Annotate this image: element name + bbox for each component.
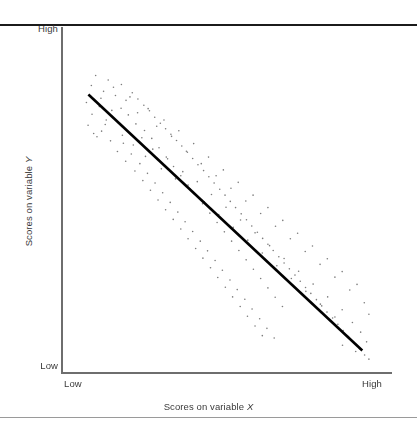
y-axis-title-text: Scores on variable — [23, 163, 34, 246]
x-axis-title: Scores on variable X — [0, 401, 417, 412]
x-axis-low-label: Low — [64, 378, 82, 389]
figure-top-rule — [0, 24, 417, 26]
y-axis-title: Scores on variable Y — [23, 112, 34, 292]
y-axis-high-label: High — [38, 23, 58, 34]
x-axis-title-variable: X — [247, 401, 253, 412]
scatter-plot-canvas — [62, 27, 392, 373]
figure-scatterplot: High Low Low High Scores on variable X S… — [0, 0, 417, 430]
x-axis-high-label: High — [362, 378, 382, 389]
figure-bottom-rule — [0, 417, 417, 418]
y-axis-title-variable: Y — [23, 157, 34, 163]
x-axis-title-text: Scores on variable — [164, 401, 247, 412]
y-axis-low-label: Low — [40, 360, 58, 371]
